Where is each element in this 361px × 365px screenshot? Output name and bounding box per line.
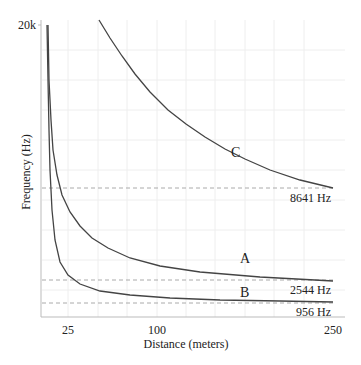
- ref-label-2544: 2544 Hz: [290, 283, 331, 297]
- axes: [38, 20, 345, 317]
- curve-a: [48, 25, 333, 281]
- grid: [42, 20, 345, 317]
- x-tick-25: 25: [62, 323, 74, 337]
- curve-label-a: A: [240, 251, 251, 266]
- ref-label-8641: 8641 Hz: [290, 191, 331, 205]
- x-tick-100: 100: [148, 323, 166, 337]
- x-tick-250: 250: [324, 323, 342, 337]
- curve-label-b: B: [240, 285, 249, 300]
- x-axis-label: Distance (meters): [144, 337, 229, 351]
- curve-label-c: C: [231, 145, 240, 160]
- y-axis-label: Frequency (Hz): [19, 134, 33, 210]
- curve-c: [99, 20, 333, 188]
- chart-svg: 20k 25 100 250 Distance (meters) Frequen…: [0, 0, 361, 365]
- chart: 20k 25 100 250 Distance (meters) Frequen…: [0, 0, 361, 365]
- y-tick-20k: 20k: [18, 18, 36, 32]
- ref-label-956: 956 Hz: [296, 305, 331, 319]
